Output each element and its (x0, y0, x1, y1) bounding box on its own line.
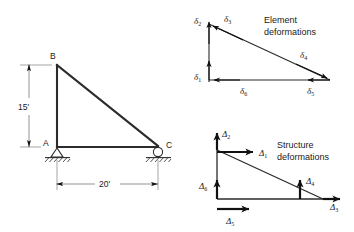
main-truss-diagram: B A C (18, 51, 172, 190)
structure-label-delta5: Δ5 (225, 216, 234, 227)
engineering-figure: B A C (0, 0, 354, 232)
dimension-label-height: 15' (18, 102, 29, 112)
element-arrow-delta5: δ5 (307, 80, 330, 97)
element-caption-line1: Element (264, 15, 298, 25)
structure-label-delta4: Δ4 (305, 176, 314, 187)
node-label-C: C (166, 140, 172, 150)
node-label-A: A (43, 138, 49, 148)
structure-deformations-diagram: Δ2 Δ1 Δ6 Δ5 Δ4 (198, 129, 340, 227)
element-arrow-delta3: δ3 (213, 14, 243, 40)
truss-member-diagonal-BC (57, 65, 158, 146)
element-label-delta3: δ3 (224, 14, 231, 25)
pin-support (45, 148, 70, 162)
element-arrow-delta2: δ2 (194, 16, 209, 44)
structure-label-delta2: Δ2 (221, 129, 230, 140)
structure-arrow-delta6: Δ6 (198, 180, 217, 199)
element-deformations-diagram: δ2 δ1 δ3 δ4 δ6 (194, 14, 330, 97)
element-caption-line2: deformations (264, 27, 317, 37)
structure-arrow-delta3: Δ3 (323, 199, 340, 213)
structure-arrow-delta2: Δ2 (217, 129, 230, 150)
structure-arrow-delta4: Δ4 (300, 176, 314, 199)
element-label-delta6: δ6 (240, 86, 247, 97)
structure-caption-line2: deformations (277, 152, 330, 162)
dimension-label-span: 20' (99, 179, 110, 189)
structure-label-delta6: Δ6 (198, 181, 207, 192)
element-label-delta1: δ1 (194, 72, 201, 83)
structure-arrow-delta5: Δ5 (217, 209, 249, 227)
structure-label-delta1: Δ1 (258, 148, 267, 159)
structure-label-delta3: Δ3 (329, 202, 338, 213)
figure-root: B A C (0, 0, 354, 232)
element-arrow-delta1: δ1 (194, 61, 209, 83)
element-arrow-delta6: δ6 (214, 80, 247, 97)
dimension-height-15ft: 15' (18, 65, 52, 147)
structure-caption-line1: Structure (277, 140, 314, 150)
element-label-delta4: δ4 (300, 50, 307, 61)
node-label-B: B (50, 51, 56, 61)
element-label-delta5: δ5 (307, 86, 314, 97)
element-label-delta2: δ2 (194, 16, 201, 27)
dimension-span-20ft: 20' (57, 160, 158, 190)
element-arrow-delta4: δ4 (296, 50, 327, 78)
